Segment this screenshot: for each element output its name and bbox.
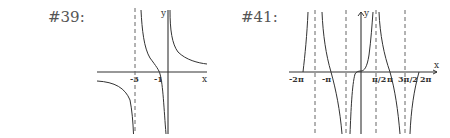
y-axis-label: y — [160, 8, 167, 18]
tick-label: 3π/2 — [398, 74, 418, 84]
graph-41: -2π -π π/2 π 3π/2 2π x y — [289, 8, 439, 134]
tick-label: -3 — [130, 74, 139, 84]
y-axis-label: y — [363, 8, 370, 18]
tick-label: 2π — [420, 74, 432, 84]
curve-branch — [322, 12, 342, 134]
curve-branch — [379, 12, 400, 134]
tick-label: -2π — [289, 74, 304, 84]
curve-branch — [361, 12, 373, 71]
graphs: -3 -1 x y -2π -π π/2 π 3π/2 2π x y — [0, 0, 450, 138]
tick-label: π/2 — [372, 74, 386, 84]
graph-39: -3 -1 x y — [97, 8, 207, 134]
tick-label: -1 — [154, 74, 163, 84]
curve-branch — [303, 12, 308, 72]
x-axis-label: x — [434, 60, 439, 70]
curve-branch — [170, 10, 207, 64]
curve-branch — [97, 81, 134, 134]
tick-label: π — [387, 74, 393, 84]
x-axis-label: x — [202, 74, 207, 84]
curve-branch — [350, 71, 361, 134]
tick-label: -π — [322, 74, 331, 84]
